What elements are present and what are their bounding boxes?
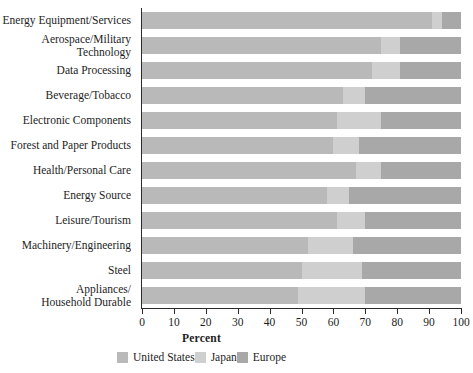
bar-segment-europe: [365, 287, 461, 304]
category-axis-labels: Energy Equipment/ServicesAerospace/Milit…: [0, 8, 136, 308]
bar-segment-united-states: [142, 162, 356, 179]
category-label: Health/Personal Care: [0, 164, 136, 177]
x-axis-tick: [206, 309, 207, 314]
x-axis-tick: [270, 309, 271, 314]
x-axis-title-text: Percent: [182, 332, 221, 344]
bar-segment-united-states: [142, 237, 308, 254]
bar-segment-united-states: [142, 187, 327, 204]
bar-segment-europe: [362, 262, 461, 279]
legend-item-united-states[interactable]: United States: [117, 351, 195, 363]
bar-row: [142, 37, 461, 54]
x-axis-tick-label: 80: [391, 316, 403, 328]
bar-segment-japan: [356, 162, 382, 179]
category-label: Energy Equipment/Services: [0, 14, 136, 27]
x-axis-tick: [238, 309, 239, 314]
bar-row: [142, 87, 461, 104]
bar-segment-japan: [372, 62, 401, 79]
bar-segment-japan: [343, 87, 365, 104]
x-axis-tick: [333, 309, 334, 314]
bar-segment-europe: [400, 62, 461, 79]
category-label: Forest and Paper Products: [0, 139, 136, 152]
bar-row: [142, 12, 461, 29]
x-axis-tick-label: 60: [328, 316, 340, 328]
bar-segment-europe: [400, 37, 461, 54]
bar-row: [142, 112, 461, 129]
x-axis-tick-label: 20: [200, 316, 212, 328]
bar-segment-europe: [353, 237, 461, 254]
bar-segment-europe: [381, 162, 461, 179]
bar-segment-united-states: [142, 87, 343, 104]
x-axis-tick: [429, 309, 430, 314]
bar-segment-united-states: [142, 137, 333, 154]
x-axis-tick-label: 40: [264, 316, 276, 328]
bar-segment-japan: [333, 137, 359, 154]
bar-segment-japan: [308, 237, 353, 254]
bar-segment-japan: [298, 287, 365, 304]
bar-segment-japan: [327, 187, 349, 204]
legend-label: United States: [133, 351, 195, 363]
legend-label: Europe: [253, 351, 286, 363]
bar-segment-united-states: [142, 112, 337, 129]
x-axis-tick: [365, 309, 366, 314]
x-axis-tick-label: 90: [423, 316, 435, 328]
category-label: Appliances/ Household Durable: [0, 283, 136, 308]
x-axis-tick-label: 0: [139, 316, 145, 328]
bar-segment-japan: [302, 262, 363, 279]
x-axis-tick-label: 30: [232, 316, 244, 328]
chart-legend: United StatesJapanEurope: [0, 351, 473, 365]
x-axis-tick-label: 70: [360, 316, 372, 328]
x-axis-tick: [397, 309, 398, 314]
plot-area: [142, 8, 461, 308]
bar-segment-united-states: [142, 37, 381, 54]
category-label: Leisure/Tourism: [0, 214, 136, 227]
bar-row: [142, 262, 461, 279]
bar-segment-europe: [442, 12, 461, 29]
legend-inner: United StatesJapanEurope: [117, 351, 286, 365]
category-label: Data Processing: [0, 64, 136, 77]
bar-row: [142, 62, 461, 79]
x-axis-tick-label: 10: [168, 316, 180, 328]
bar-row: [142, 187, 461, 204]
category-label: Aerospace/Military Technology: [0, 33, 136, 58]
legend-swatch-icon: [117, 352, 128, 363]
legend-swatch-icon: [195, 352, 206, 363]
x-axis-tick: [174, 309, 175, 314]
x-axis-tick: [142, 309, 143, 314]
bar-segment-europe: [381, 112, 461, 129]
bar-row: [142, 212, 461, 229]
category-label: Steel: [0, 264, 136, 277]
bar-segment-japan: [337, 212, 366, 229]
bar-row: [142, 137, 461, 154]
x-axis-tick: [461, 309, 462, 314]
bar-segment-united-states: [142, 62, 372, 79]
bar-segment-japan: [381, 37, 400, 54]
x-axis-tick-label: 100: [452, 316, 469, 328]
legend-label: Japan: [211, 351, 237, 363]
bar-row: [142, 162, 461, 179]
category-label: Electronic Components: [0, 114, 136, 127]
x-axis-tick: [302, 309, 303, 314]
legend-item-europe[interactable]: Europe: [237, 351, 286, 363]
bar-row: [142, 237, 461, 254]
x-axis-tick-label: 50: [296, 316, 308, 328]
bar-segment-japan: [432, 12, 442, 29]
bar-segment-japan: [337, 112, 382, 129]
legend-swatch-icon: [237, 352, 248, 363]
bar-segment-united-states: [142, 287, 298, 304]
bar-segment-europe: [349, 187, 461, 204]
category-label: Beverage/Tobacco: [0, 89, 136, 102]
bar-segment-united-states: [142, 212, 337, 229]
x-axis-title: Percent: [0, 332, 473, 344]
category-label: Energy Source: [0, 189, 136, 202]
bar-segment-europe: [365, 87, 461, 104]
legend-item-japan[interactable]: Japan: [195, 351, 237, 363]
bar-segment-europe: [365, 212, 461, 229]
bar-segment-europe: [359, 137, 461, 154]
category-label: Machinery/Engineering: [0, 239, 136, 252]
stacked-bar-chart: Energy Equipment/ServicesAerospace/Milit…: [0, 0, 473, 373]
bar-segment-united-states: [142, 12, 432, 29]
bar-row: [142, 287, 461, 304]
bar-segment-united-states: [142, 262, 302, 279]
